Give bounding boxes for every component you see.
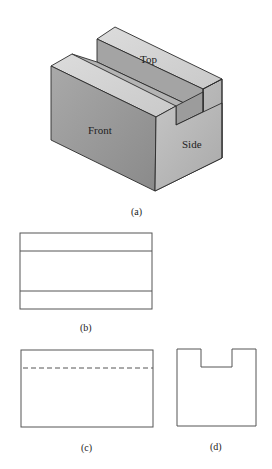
caption-a: (a) (131, 206, 142, 218)
side-view (177, 349, 256, 426)
label-top: Top (140, 53, 157, 65)
label-front: Front (88, 124, 112, 136)
front-view (21, 350, 153, 427)
figure-canvas: Top Front Side (a) (b) (c) (d) (0, 0, 272, 469)
top-view-outline (20, 233, 152, 309)
label-side: Side (182, 138, 202, 150)
caption-b: (b) (80, 322, 92, 334)
caption-d: (d) (210, 441, 222, 453)
side-view-outline (177, 349, 256, 426)
top-view (20, 233, 152, 309)
caption-c: (c) (81, 442, 92, 454)
front-view-outline (21, 350, 153, 427)
isometric-block: Top Front Side (51, 27, 222, 191)
